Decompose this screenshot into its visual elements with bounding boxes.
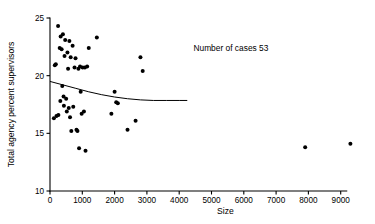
data-point [67, 39, 71, 43]
y-axis-group: 10152025 [35, 14, 50, 196]
data-point [60, 84, 64, 88]
annotations-group: Number of cases 53 [193, 43, 268, 53]
data-point [69, 129, 73, 133]
x-axis-group: 0100020003000400050006000700080009000 [48, 191, 351, 205]
data-point [68, 115, 72, 119]
data-point [82, 109, 86, 113]
x-axis-tick-label: 4000 [170, 196, 189, 205]
data-point [63, 54, 67, 58]
data-point [61, 32, 65, 36]
data-point [109, 112, 113, 116]
chart-canvas: 10152025 0100020003000400050006000700080… [0, 0, 375, 224]
data-point [138, 55, 142, 59]
fit-curve-group [50, 81, 187, 100]
x-axis-tick-label: 7000 [267, 196, 286, 205]
data-point [85, 64, 89, 68]
x-axis-tick-label: 3000 [138, 196, 157, 205]
data-point [74, 56, 78, 60]
x-axis-tick-label: 0 [48, 196, 53, 205]
data-point [348, 142, 352, 146]
data-point [63, 38, 67, 42]
data-point [303, 145, 307, 149]
data-point [116, 101, 120, 105]
data-point [69, 55, 73, 59]
y-axis-title: Total agency percent supervisors [6, 42, 16, 168]
data-point [54, 62, 58, 66]
fitted-trend-curve [50, 81, 187, 100]
data-point [141, 69, 145, 73]
data-point [58, 99, 62, 103]
x-axis-tick-label: 5000 [202, 196, 221, 205]
scatter-plot-figure: 10152025 0100020003000400050006000700080… [0, 0, 375, 224]
data-point [79, 90, 83, 94]
data-point [64, 97, 68, 101]
data-point [65, 109, 69, 113]
data-point [95, 36, 99, 40]
data-point [84, 149, 88, 153]
data-point [87, 46, 91, 50]
y-axis-tick-label: 15 [35, 129, 45, 138]
y-axis-tick-label: 20 [35, 72, 45, 81]
data-point [75, 129, 79, 133]
chart-annotation: Number of cases 53 [193, 43, 268, 53]
data-point [71, 44, 75, 48]
x-axis-tick-label: 6000 [235, 196, 254, 205]
data-point [71, 105, 75, 109]
x-axis-tick-label: 2000 [105, 196, 124, 205]
data-point [62, 104, 66, 108]
data-point [134, 119, 138, 123]
data-point [56, 24, 60, 28]
data-point [60, 47, 64, 51]
x-axis-tick-label: 8000 [299, 196, 318, 205]
data-point [66, 67, 70, 71]
data-point [67, 106, 71, 110]
y-axis-tick-label: 25 [35, 14, 45, 23]
data-point [77, 146, 81, 150]
data-point [56, 113, 60, 117]
x-axis-tick-label: 1000 [73, 196, 92, 205]
x-axis-title: Size [217, 206, 234, 216]
data-point [65, 51, 69, 55]
data-point [126, 128, 130, 132]
x-axis-tick-label: 9000 [332, 196, 351, 205]
data-point [73, 66, 77, 70]
data-point [113, 90, 117, 94]
y-axis-tick-label: 10 [35, 187, 45, 196]
